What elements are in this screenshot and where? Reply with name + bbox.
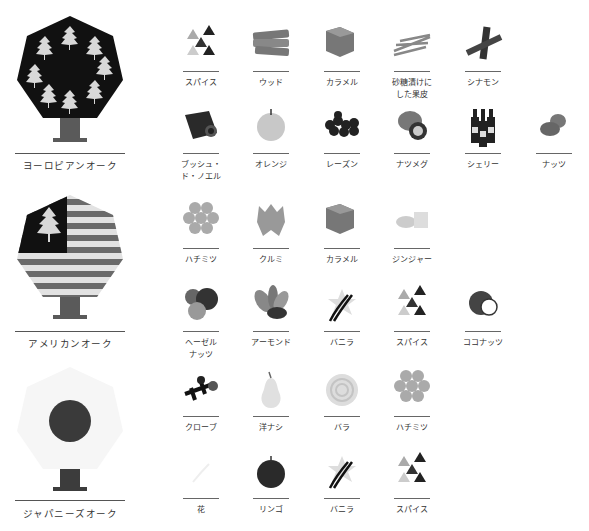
spice-icon <box>382 285 442 331</box>
spice-icon <box>171 25 231 71</box>
hazelnut-icon <box>171 285 231 331</box>
flavor-label: ナッツ <box>514 159 589 171</box>
flavor-label: 砂糖漬けに した果皮 <box>372 77 452 101</box>
cinnamon-icon <box>453 25 513 71</box>
flavor-label: アーモンド <box>231 337 311 349</box>
honeycomb-icon <box>382 370 442 416</box>
spice-icon <box>382 452 442 498</box>
flavor-label: カラメル <box>302 254 382 266</box>
coconut-icon <box>453 285 513 331</box>
flavor-label: バニラ <box>302 504 382 516</box>
flavor-label: スパイス <box>161 77 241 89</box>
flavor-label: シナモン <box>443 77 523 89</box>
nutmeg-icon <box>382 107 442 153</box>
tree-label-european-oak: ヨーロピアンオーク <box>0 158 140 172</box>
flavor-label: カラメル <box>302 77 382 89</box>
apple-icon <box>241 452 301 498</box>
clove-icon <box>171 370 231 416</box>
flavor-label: ジンジャー <box>372 254 452 266</box>
flavor-label: オレンジ <box>231 159 311 171</box>
candied-peel-icon <box>382 25 442 71</box>
flavor-label: ウッド <box>231 77 311 89</box>
divider <box>15 153 125 154</box>
american-oak-tree <box>15 193 125 321</box>
flavor-label: リンゴ <box>231 504 311 516</box>
flavor-label: スパイス <box>372 504 452 516</box>
sherry-bottles-icon <box>453 107 513 153</box>
flavor-label: シェリー <box>443 159 523 171</box>
flavor-label: ココナッツ <box>443 337 523 349</box>
caramel-icon <box>312 25 372 71</box>
pear-icon <box>241 370 301 416</box>
vanilla-icon <box>312 452 372 498</box>
flavor-label: ヘーゼル ナッツ <box>161 337 241 361</box>
ginger-icon <box>382 202 442 248</box>
flavor-label: レーズン <box>302 159 382 171</box>
rose-icon <box>312 370 372 416</box>
divider <box>15 331 125 332</box>
flavor-label: ハチミツ <box>372 422 452 434</box>
walnut-icon <box>241 202 301 248</box>
flavor-label: 洋ナシ <box>231 422 311 434</box>
divider <box>15 500 125 501</box>
caramel-icon <box>312 202 372 248</box>
buche-de-noel-icon <box>171 107 231 153</box>
flavor-label: ブッシュ・ ド・ノエル <box>161 159 241 183</box>
flavor-label: ナツメグ <box>372 159 452 171</box>
flower-icon <box>171 452 231 498</box>
almond-icon <box>241 285 301 331</box>
nuts-icon <box>524 107 584 153</box>
flavor-label: スパイス <box>372 337 452 349</box>
flavor-label: クローブ <box>161 422 241 434</box>
honeycomb-icon <box>171 202 231 248</box>
flavor-label: ハチミツ <box>161 254 241 266</box>
japanese-oak-tree <box>15 365 125 495</box>
flavor-label: 花 <box>161 504 241 516</box>
european-oak-tree-icon <box>15 14 125 144</box>
flavor-label: バラ <box>302 422 382 434</box>
flavor-label: クルミ <box>231 254 311 266</box>
tree-label-japanese-oak: ジャパニーズオーク <box>0 506 140 520</box>
wood-icon <box>241 25 301 71</box>
raisin-icon <box>312 107 372 153</box>
orange-icon <box>241 107 301 153</box>
american-oak-tree-icon <box>15 193 125 321</box>
japanese-oak-tree-icon <box>15 365 125 495</box>
european-oak-tree <box>15 14 125 144</box>
flavor-label: バニラ <box>302 337 382 349</box>
tree-label-american-oak: アメリカンオーク <box>0 336 140 350</box>
vanilla-icon <box>312 285 372 331</box>
